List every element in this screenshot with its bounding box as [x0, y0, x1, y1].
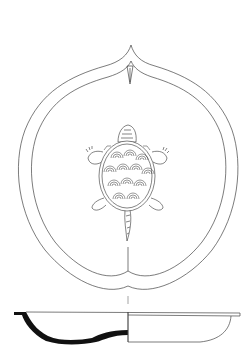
- section-exterior-view: [128, 312, 240, 342]
- turtle-motif: [86, 125, 169, 241]
- turtle-tail: [125, 210, 131, 241]
- turtle-head: [118, 125, 136, 142]
- turtle-front-left-leg: [88, 151, 103, 164]
- cross-section: [14, 312, 240, 345]
- dish-drawing: [0, 0, 250, 358]
- section-profile-filled: [14, 312, 128, 345]
- turtle-back-right-leg: [149, 198, 163, 210]
- turtle-shell: [99, 141, 155, 211]
- turtle-back-left-leg: [92, 198, 106, 210]
- turtle-front-right-leg: [152, 151, 167, 164]
